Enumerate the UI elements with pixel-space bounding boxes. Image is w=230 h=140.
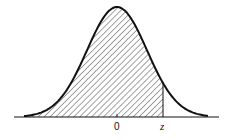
shaded-area bbox=[24, 7, 208, 117]
axis-label-z: z bbox=[160, 121, 164, 132]
normal-curve-diagram bbox=[0, 0, 230, 140]
axis-label-zero: 0 bbox=[114, 122, 120, 132]
